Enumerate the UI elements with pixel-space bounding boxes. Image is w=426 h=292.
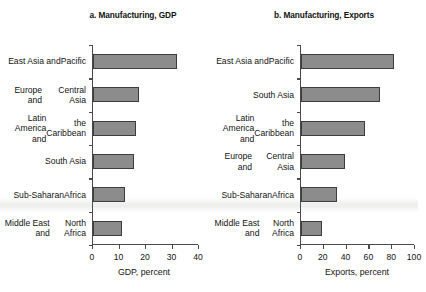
chart-a-category-labels: East Asia andPacificEurope andCentral As… [0, 45, 90, 245]
bar [93, 154, 134, 169]
chart-b-category-labels: East Asia andPacificSouth AsiaLatin Amer… [212, 45, 298, 245]
x-tick-label: 100 [407, 252, 421, 262]
x-tick [119, 245, 120, 249]
y-tick [89, 45, 93, 46]
bar [93, 54, 177, 69]
bar-row [93, 178, 198, 211]
x-tick-label: 10 [114, 252, 124, 262]
x-tick [368, 245, 369, 249]
y-tick [89, 145, 93, 146]
bar-row [93, 112, 198, 145]
bar [301, 187, 337, 202]
y-tick [89, 112, 93, 113]
y-tick [89, 178, 93, 179]
category-label: Sub-SaharanAfrica [212, 178, 298, 211]
bar [301, 221, 322, 236]
x-tick-label: 0 [298, 252, 303, 262]
x-tick [300, 245, 301, 249]
category-label: South Asia [0, 145, 90, 178]
x-tick-label: 20 [140, 252, 150, 262]
chart-b-x-axis-title: Exports, percent [300, 267, 414, 277]
category-label: Europe andCentral Asia [212, 145, 298, 178]
bar-row [93, 212, 198, 245]
x-tick-label: 0 [90, 252, 95, 262]
bar [93, 87, 139, 102]
x-tick [172, 245, 173, 249]
bar-row [301, 112, 414, 145]
category-label: East Asia andPacific [0, 45, 90, 78]
y-tick [297, 145, 301, 146]
x-tick [92, 245, 93, 249]
bar [93, 221, 122, 236]
bar-row [93, 145, 198, 178]
bar-row [93, 45, 198, 78]
x-tick [145, 245, 146, 249]
category-label: Latin America andthe Caribbean [0, 112, 90, 145]
x-tick-label: 80 [386, 252, 396, 262]
category-label: Middle East andNorth Africa [212, 212, 298, 245]
y-tick [297, 178, 301, 179]
bar [301, 154, 345, 169]
x-tick [198, 245, 199, 249]
category-label: Sub-SaharanAfrica [0, 178, 90, 211]
x-tick-label: 40 [193, 252, 203, 262]
category-label: East Asia andPacific [212, 45, 298, 78]
x-tick [323, 245, 324, 249]
y-tick [89, 212, 93, 213]
category-label: Europe andCentral Asia [0, 78, 90, 111]
x-tick-label: 40 [341, 252, 351, 262]
bar [301, 121, 365, 136]
category-label: Middle East andNorth Africa [0, 212, 90, 245]
bar [301, 54, 394, 69]
bar-row [301, 78, 414, 111]
chart-b-axes: 020406080100 Exports, percent [300, 45, 414, 245]
x-tick-label: 20 [318, 252, 328, 262]
chart-a-bars [93, 45, 198, 245]
chart-b-plot: East Asia andPacificSouth AsiaLatin Amer… [210, 0, 418, 292]
y-tick [297, 78, 301, 79]
chart-a-x-axis-title: GDP, percent [90, 267, 198, 277]
chart-b-bars [301, 45, 414, 245]
bar [93, 187, 125, 202]
y-tick [89, 78, 93, 79]
y-tick [297, 45, 301, 46]
chart-a-axes: 010203040 GDP, percent [92, 45, 198, 245]
y-tick [297, 212, 301, 213]
x-tick-label: 60 [364, 252, 374, 262]
x-tick-label: 30 [167, 252, 177, 262]
chart-a-plot: East Asia andPacificEurope andCentral As… [0, 0, 210, 292]
bar-row [93, 78, 198, 111]
bar-row [301, 45, 414, 78]
category-label: South Asia [212, 78, 298, 111]
category-label: Latin America andthe Caribbean [212, 112, 298, 145]
y-tick [297, 112, 301, 113]
x-tick [391, 245, 392, 249]
bar [301, 87, 380, 102]
chart-panel-a: a. Manufacturing, GDP East Asia andPacif… [0, 0, 210, 292]
bar [93, 121, 136, 136]
bar-row [301, 212, 414, 245]
x-tick [346, 245, 347, 249]
x-tick [414, 245, 415, 249]
bar-row [301, 178, 414, 211]
chart-panel-b: b. Manufacturing, Exports East Asia andP… [210, 0, 418, 292]
bar-row [301, 145, 414, 178]
